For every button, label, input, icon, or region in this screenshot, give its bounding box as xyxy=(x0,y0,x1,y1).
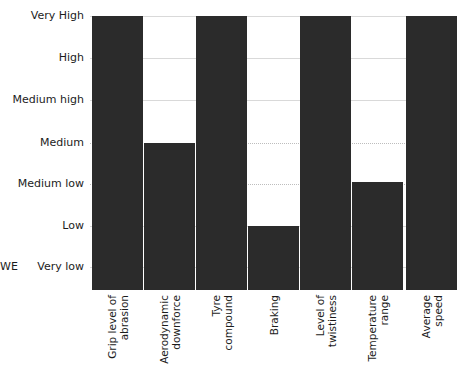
x-tick-label-line: Tyre xyxy=(210,295,222,351)
x-tick-level-of-twistiness: Level of twistiness xyxy=(300,291,351,390)
x-tick-label-line: Grip level of xyxy=(106,295,118,359)
x-tick-label-line: abrasion xyxy=(118,295,130,359)
y-tick-label-low: Low xyxy=(62,220,84,232)
x-tick-label-line: Aerodynamic xyxy=(158,295,170,364)
x-tick-grip-level-of-abrasion: Grip level of abrasion xyxy=(92,291,143,390)
bar-aerodynamic-downforce[interactable] xyxy=(144,143,195,290)
y-tick-label-very-high: Very High xyxy=(31,10,84,22)
x-tick-label-aerodynamic-downforce: Aerodynamic downforce xyxy=(158,295,182,364)
x-axis: Grip level of abrasion Aerodynamic downf… xyxy=(90,291,457,390)
bar-average-speed[interactable] xyxy=(406,16,457,290)
bar-braking[interactable] xyxy=(248,226,299,290)
y-tick-label-medium: Medium xyxy=(40,137,84,149)
x-tick-braking: Braking xyxy=(248,291,299,390)
x-tick-label-line: Level of xyxy=(314,295,326,347)
x-tick-label-line: compound xyxy=(222,295,234,351)
x-tick-label-line: downforce xyxy=(170,295,182,364)
x-tick-label-braking: Braking xyxy=(268,295,280,335)
x-tick-label-line: Temperature xyxy=(366,295,378,362)
x-tick-aerodynamic-downforce: Aerodynamic downforce xyxy=(144,291,195,390)
corner-label: WE xyxy=(0,261,18,273)
bar-tyre-compound[interactable] xyxy=(196,16,247,290)
x-tick-label-line: range xyxy=(378,295,390,362)
x-tick-label-temperature-range: Temperature range xyxy=(366,295,390,362)
x-tick-label-line: twistiness xyxy=(326,295,338,347)
plot-area xyxy=(90,16,457,290)
x-tick-label-line: speed xyxy=(432,295,444,338)
bar-grip-level-of-abrasion[interactable] xyxy=(92,16,143,290)
x-tick-temperature-range: Temperature range xyxy=(352,291,403,390)
x-tick-label-grip-level-of-abrasion: Grip level of abrasion xyxy=(106,295,130,359)
y-tick-label-medium-low: Medium low xyxy=(18,178,84,190)
y-tick-label-medium-high: Medium high xyxy=(13,94,84,106)
x-tick-label-level-of-twistiness: Level of twistiness xyxy=(314,295,338,347)
x-tick-label-tyre-compound: Tyre compound xyxy=(210,295,234,351)
bar-chart: Very High High Medium high Medium Medium… xyxy=(0,0,457,390)
x-tick-average-speed: Average speed xyxy=(406,291,457,390)
bar-temperature-range[interactable] xyxy=(352,182,403,290)
x-tick-label-average-speed: Average speed xyxy=(420,295,444,338)
bar-level-of-twistiness[interactable] xyxy=(300,16,351,290)
x-tick-tyre-compound: Tyre compound xyxy=(196,291,247,390)
y-axis: Very High High Medium high Medium Medium… xyxy=(0,0,88,290)
bars-layer xyxy=(90,16,457,290)
x-tick-label-line: Braking xyxy=(268,295,280,335)
x-tick-label-line: Average xyxy=(420,295,432,338)
y-tick-label-very-low: Very low xyxy=(37,261,84,273)
y-tick-label-high: High xyxy=(59,52,84,64)
